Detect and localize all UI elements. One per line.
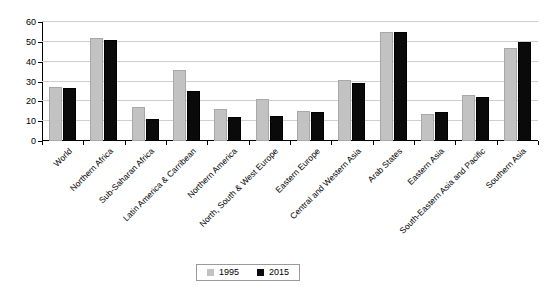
y-axis-tick-label: 60 bbox=[26, 18, 36, 27]
x-axis-category-label: World bbox=[51, 146, 74, 169]
x-axis-tick bbox=[414, 141, 415, 145]
y-axis-tick-label: 0 bbox=[31, 137, 36, 146]
bar-1995 bbox=[421, 114, 434, 141]
legend-swatch-icon-2015 bbox=[257, 269, 264, 276]
bar-1995 bbox=[173, 70, 186, 141]
x-axis-category-label: Eastern Asia bbox=[405, 146, 446, 187]
bar-2015 bbox=[311, 112, 324, 141]
legend-swatch-icon-1995 bbox=[207, 269, 214, 276]
bar-1995 bbox=[380, 32, 393, 141]
bar-1995 bbox=[462, 95, 475, 141]
bar-2015 bbox=[518, 42, 531, 141]
bar-2015 bbox=[63, 88, 76, 141]
bar-2015 bbox=[435, 112, 448, 141]
bars-layer bbox=[42, 22, 538, 141]
legend-label-1995: 1995 bbox=[219, 268, 239, 277]
bar-2015 bbox=[476, 97, 489, 141]
bar-group bbox=[83, 22, 124, 141]
bar-1995 bbox=[256, 99, 269, 141]
chart-legend: 1995 2015 bbox=[196, 264, 300, 281]
bar-2015 bbox=[228, 117, 241, 141]
x-axis-tick bbox=[249, 141, 250, 145]
bar-group bbox=[414, 22, 455, 141]
bar-1995 bbox=[338, 80, 351, 141]
bar-1995 bbox=[49, 87, 62, 141]
x-axis-tick bbox=[42, 141, 43, 145]
bar-2015 bbox=[146, 119, 159, 141]
bar-chart: 0102030405060 WorldNorthern AfricaSub-Sa… bbox=[0, 0, 546, 303]
bar-2015 bbox=[394, 32, 407, 141]
x-axis-tick bbox=[207, 141, 208, 145]
x-axis-tick bbox=[331, 141, 332, 145]
bar-1995 bbox=[504, 48, 517, 141]
bar-2015 bbox=[187, 91, 200, 141]
legend-item-2015: 2015 bbox=[257, 268, 289, 277]
legend-label-2015: 2015 bbox=[269, 268, 289, 277]
bar-1995 bbox=[297, 111, 310, 141]
bar-group bbox=[125, 22, 166, 141]
x-axis-category-label: Arab States bbox=[366, 146, 404, 184]
x-axis-category-label: Latin America & Carribean bbox=[120, 146, 197, 223]
caption-fragment bbox=[8, 292, 338, 303]
bar-group bbox=[497, 22, 538, 141]
x-axis-labels: WorldNorthern AfricaSub-Saharan AfricaLa… bbox=[42, 146, 546, 251]
bar-group bbox=[207, 22, 248, 141]
y-axis-tick-label: 10 bbox=[26, 117, 36, 126]
bar-2015 bbox=[352, 83, 365, 141]
bar-group bbox=[373, 22, 414, 141]
x-axis-tick bbox=[166, 141, 167, 145]
x-axis-tick bbox=[83, 141, 84, 145]
y-axis-labels: 0102030405060 bbox=[0, 22, 36, 141]
x-axis-category-label: North, South & West Europe bbox=[198, 146, 281, 229]
bar-1995 bbox=[90, 38, 103, 141]
bar-2015 bbox=[104, 40, 117, 141]
plot-area bbox=[42, 22, 538, 141]
x-axis-tick bbox=[373, 141, 374, 145]
y-axis-tick-label: 40 bbox=[26, 57, 36, 66]
x-axis-category-label: Central and Western Asia bbox=[288, 146, 363, 221]
x-axis-category-label: Southern Asia bbox=[484, 146, 529, 191]
bar-1995 bbox=[214, 109, 227, 141]
y-axis-tick-label: 20 bbox=[26, 97, 36, 106]
bar-group bbox=[42, 22, 83, 141]
y-axis-tick-label: 30 bbox=[26, 77, 36, 86]
bar-group bbox=[455, 22, 496, 141]
bar-2015 bbox=[270, 116, 283, 141]
x-axis-tick bbox=[125, 141, 126, 145]
x-axis-category-label: South-Eastern Asia and Pacific bbox=[397, 146, 487, 236]
x-axis-tick bbox=[538, 141, 539, 145]
bar-group bbox=[290, 22, 331, 141]
bar-group bbox=[166, 22, 207, 141]
x-axis-tick bbox=[290, 141, 291, 145]
y-axis-tick-label: 50 bbox=[26, 37, 36, 46]
bar-group bbox=[331, 22, 372, 141]
bar-group bbox=[249, 22, 290, 141]
x-axis-tick bbox=[455, 141, 456, 145]
legend-item-1995: 1995 bbox=[207, 268, 239, 277]
x-axis-tick bbox=[497, 141, 498, 145]
bar-1995 bbox=[132, 107, 145, 141]
